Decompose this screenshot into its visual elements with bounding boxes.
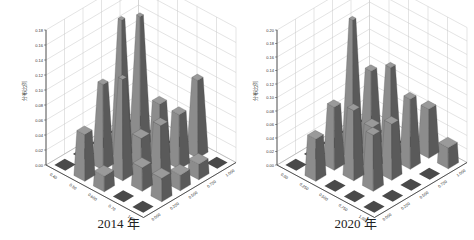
- z-tick-label: 0.14: [35, 58, 44, 63]
- z-tick-label: 0.00: [266, 163, 275, 168]
- y-tick-label: 0.250: [400, 200, 412, 210]
- y-tick-label: 0.250: [169, 200, 181, 210]
- x-tick-label: 0.00: [280, 172, 290, 181]
- z-tick-label: 0.16: [35, 43, 44, 48]
- z-tick-label: 0.04: [266, 136, 275, 141]
- z-axis-label: 分布比例: [21, 81, 28, 101]
- z-tick-label: 0.04: [35, 133, 44, 138]
- bar: [169, 164, 190, 191]
- bar3d-chart-2014: 0.000.020.040.060.080.100.120.140.160.18…: [0, 0, 237, 240]
- chart-2020: 0.000.020.040.060.080.100.120.140.160.18…: [237, 0, 474, 240]
- z-tick-label: 0.12: [35, 73, 44, 78]
- floor-cell: [382, 190, 403, 202]
- z-tick-label: 0.02: [35, 148, 44, 153]
- floor-cell: [324, 180, 345, 192]
- bar3d-chart-2020: 0.000.020.040.060.080.100.120.140.160.18…: [237, 0, 474, 240]
- bar: [129, 13, 150, 149]
- z-tick-label: 0.20: [266, 28, 275, 33]
- bar: [188, 153, 209, 180]
- z-tick-label: 0.18: [35, 28, 44, 33]
- z-tick-label: 0.14: [266, 68, 275, 73]
- bar: [168, 107, 189, 170]
- x-tick-label: 0.70: [107, 203, 117, 212]
- x-tick-label: 0.40: [49, 172, 59, 181]
- y-tick-label: 1.000: [455, 167, 467, 177]
- floor-cell: [113, 190, 134, 202]
- bar: [151, 168, 172, 202]
- y-tick-label: 1.000: [224, 167, 236, 177]
- y-tick-label: 0.500: [187, 189, 199, 199]
- y-tick-label: 0.500: [418, 189, 430, 199]
- z-tick-label: 0.10: [266, 95, 275, 100]
- floor-cell: [400, 179, 421, 191]
- x-tick-label: 0.50: [68, 182, 78, 191]
- bar: [381, 116, 402, 180]
- bar: [418, 101, 439, 159]
- floor-cell: [363, 201, 384, 213]
- bar: [305, 130, 326, 181]
- z-axis-label: 分布比例: [252, 81, 259, 101]
- z-tick-label: 0.06: [35, 118, 44, 123]
- x-tick-label: 0.500: [318, 192, 330, 202]
- floor-cell: [54, 159, 75, 171]
- z-tick-label: 0.10: [35, 88, 44, 93]
- z-tick-label: 0.18: [266, 41, 275, 46]
- y-tick-label: 0.750: [206, 178, 218, 188]
- bar: [74, 126, 95, 181]
- bar: [323, 100, 344, 171]
- floor-cell: [344, 190, 365, 202]
- chart-2014: 0.000.020.040.060.080.100.120.140.160.18…: [0, 0, 237, 240]
- floor-cell: [132, 201, 153, 213]
- bar: [187, 74, 208, 158]
- z-tick-label: 0.16: [266, 55, 275, 60]
- x-tick-label: 0.750: [338, 203, 350, 213]
- caption-2020: 2020 年: [237, 213, 474, 232]
- z-tick-label: 0.12: [266, 82, 275, 87]
- floor-cell: [419, 168, 440, 180]
- z-tick-label: 0.02: [266, 149, 275, 154]
- floor-cell: [285, 159, 306, 171]
- x-tick-label: 0.250: [299, 182, 311, 192]
- bar: [131, 158, 152, 192]
- z-tick-label: 0.00: [35, 163, 44, 168]
- x-tick-label: 0.600: [87, 192, 99, 202]
- bar: [437, 137, 458, 169]
- y-tick-label: 0.750: [437, 178, 449, 188]
- z-tick-label: 0.06: [266, 122, 275, 127]
- bar: [92, 79, 113, 170]
- bar: [399, 92, 420, 169]
- bar: [362, 127, 383, 191]
- z-tick-label: 0.08: [35, 103, 44, 108]
- bar: [93, 165, 114, 192]
- caption-2014: 2014 年: [0, 213, 237, 232]
- z-tick-label: 0.08: [266, 109, 275, 114]
- floor-cell: [206, 157, 227, 169]
